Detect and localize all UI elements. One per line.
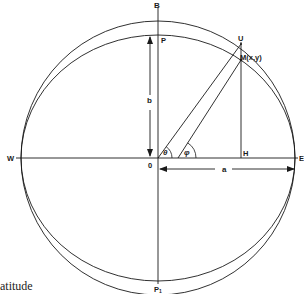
caption-fragment: atitude	[0, 279, 33, 294]
label-O: 0	[148, 161, 152, 170]
diagram-svg: B P U M(x,y) b W E 0 H a θ φ P1	[0, 0, 304, 294]
label-b: b	[147, 96, 152, 105]
label-a: a	[222, 165, 227, 174]
label-P1: P1	[154, 285, 162, 294]
normal-line	[178, 60, 241, 158]
label-H: H	[243, 149, 248, 158]
label-B: B	[154, 1, 160, 10]
ellipse-latitude-diagram: B P U M(x,y) b W E 0 H a θ φ P1 atitude	[0, 0, 304, 294]
label-M: M(x,y)	[240, 53, 262, 62]
label-E: E	[299, 154, 304, 163]
label-P: P	[161, 36, 166, 45]
label-U: U	[238, 34, 243, 43]
label-W: W	[7, 154, 15, 163]
reduced-latitude-line	[158, 44, 241, 158]
label-phi: φ	[184, 148, 190, 157]
label-theta: θ	[163, 148, 168, 157]
point-U	[240, 43, 242, 45]
